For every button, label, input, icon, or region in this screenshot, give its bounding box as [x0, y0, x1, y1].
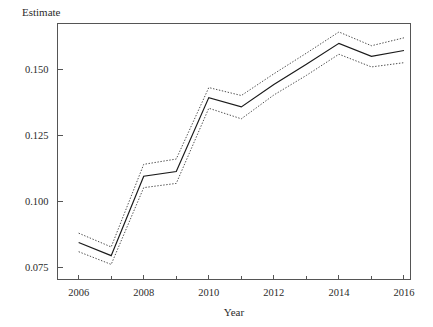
estimate-line	[79, 43, 404, 255]
y-axis-title: Estimate	[22, 6, 61, 18]
y-axis-ticks: 0.0750.1000.1250.150	[25, 64, 63, 274]
plot-frame	[58, 24, 411, 280]
data-series-group	[79, 32, 404, 264]
x-tick-label: 2010	[198, 287, 219, 298]
x-tick-label: 2014	[328, 287, 350, 298]
estimate-over-time-line-chart: 0.0750.1000.1250.150 2006200820102012201…	[0, 0, 433, 327]
x-axis-ticks: 200620082010201220142016	[68, 275, 414, 298]
chart-figure: 0.0750.1000.1250.150 2006200820102012201…	[0, 0, 433, 327]
plot-border	[58, 24, 411, 280]
y-tick-label: 0.075	[25, 262, 49, 273]
y-tick-label: 0.125	[25, 130, 49, 141]
x-tick-label: 2006	[68, 287, 89, 298]
x-tick-label: 2016	[393, 287, 414, 298]
y-tick-label: 0.150	[25, 64, 49, 75]
x-axis-title: Year	[224, 306, 245, 318]
lower-confidence-band	[79, 54, 404, 264]
y-tick-label: 0.100	[25, 196, 49, 207]
x-tick-label: 2008	[133, 287, 154, 298]
x-tick-label: 2012	[263, 287, 284, 298]
